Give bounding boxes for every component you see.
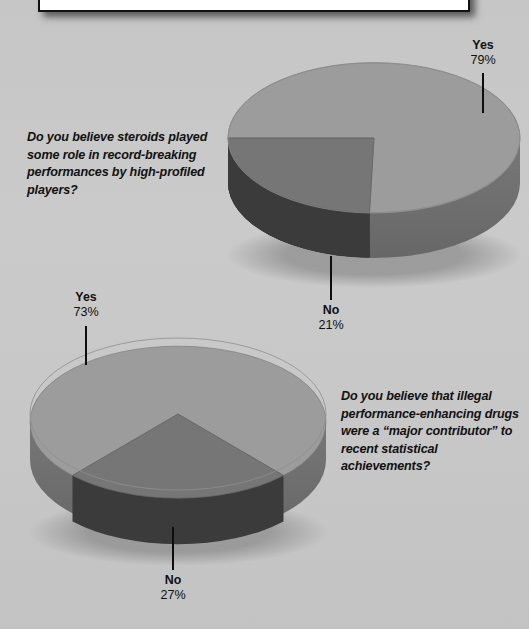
question-text-top: Do you believe steroids played some role… <box>27 129 242 199</box>
callout-label: No <box>286 303 376 317</box>
callout-label: No <box>128 573 218 587</box>
callout-value: 21% <box>286 317 376 333</box>
callout-bottom-no: No 27% <box>128 573 218 603</box>
callout-value: 27% <box>128 587 218 603</box>
white-panel <box>38 0 470 12</box>
leader-line-top-yes <box>482 73 484 113</box>
callout-label: Yes <box>41 290 131 304</box>
leader-line-bottom-yes <box>85 326 87 365</box>
question-text-bottom: Do you believe that illegal performance-… <box>341 388 526 476</box>
leader-line-top-no <box>330 256 332 300</box>
pie-chart-bottom <box>18 322 344 570</box>
callout-bottom-yes: Yes 73% <box>41 290 131 320</box>
callout-value: 79% <box>438 52 528 68</box>
page-root: Do you believe steroids played some role… <box>0 0 529 629</box>
callout-value: 73% <box>41 304 131 320</box>
callout-label: Yes <box>438 38 528 52</box>
callout-top-yes: Yes 79% <box>438 38 528 68</box>
leader-line-bottom-no <box>172 527 174 570</box>
callout-top-no: No 21% <box>286 303 376 333</box>
